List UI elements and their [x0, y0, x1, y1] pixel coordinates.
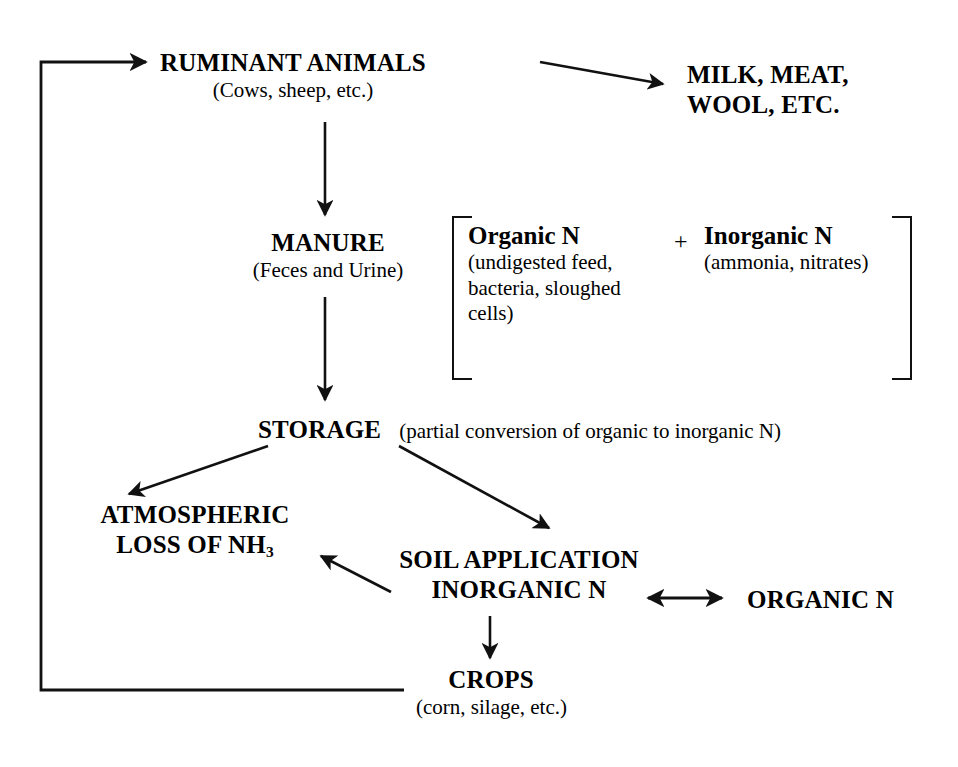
storage-note: (partial conversion of organic to inorga…	[399, 419, 781, 443]
node-soil-application: SOIL APPLICATION INORGANIC N	[389, 545, 649, 604]
atmospheric-line-2: LOSS OF NH3	[60, 530, 330, 562]
atmospheric-line-1: ATMOSPHERIC	[60, 500, 330, 530]
products-line-2: WOOL, ETC.	[687, 90, 849, 120]
soil-inorganic-n-label: INORGANIC N	[389, 575, 649, 605]
plus-sign: +	[674, 228, 688, 255]
arrow-crops-to-ruminant	[41, 62, 404, 690]
node-animal-products: MILK, MEAT, WOOL, ETC.	[687, 60, 849, 119]
crops-subtext: (corn, silage, etc.)	[416, 695, 566, 720]
node-manure: MANURE (Feces and Urine)	[223, 228, 433, 282]
inorganic-n-subtext: (ammonia, nitrates)	[704, 250, 909, 276]
node-organic-n-composition: Organic N (undigested feed, bacteria, sl…	[468, 222, 668, 327]
ammonia-subscript: 3	[266, 543, 274, 560]
node-ruminant-animals: RUMINANT ANIMALS (Cows, sheep, etc.)	[160, 48, 426, 102]
arrow-storage-to-soil	[399, 446, 549, 528]
node-soil-organic-n: ORGANIC N	[747, 585, 894, 615]
crops-heading: CROPS	[416, 665, 566, 695]
soil-organic-n-label: ORGANIC N	[747, 585, 894, 615]
node-crops: CROPS (corn, silage, etc.)	[416, 665, 566, 719]
arrow-ruminant-to-products	[540, 62, 663, 84]
node-storage: STORAGE(partial conversion of organic to…	[258, 415, 781, 445]
manure-subtext: (Feces and Urine)	[223, 258, 433, 283]
products-line-1: MILK, MEAT,	[687, 60, 849, 90]
soil-application-heading: SOIL APPLICATION	[389, 545, 649, 575]
atmospheric-line-2-text: LOSS OF NH	[116, 531, 266, 558]
node-inorganic-n-composition: Inorganic N (ammonia, nitrates)	[704, 222, 909, 276]
inorganic-n-heading: Inorganic N	[704, 222, 909, 250]
arrow-inorganic-to-atmospheric	[321, 556, 391, 592]
organic-n-heading: Organic N	[468, 222, 668, 250]
node-atmospheric-loss: ATMOSPHERIC LOSS OF NH3	[60, 500, 330, 561]
ruminant-heading: RUMINANT ANIMALS	[160, 48, 426, 78]
manure-heading: MANURE	[223, 228, 433, 258]
nitrogen-cycle-diagram: RUMINANT ANIMALS (Cows, sheep, etc.) MIL…	[0, 0, 958, 767]
manure-composition-bracket-group: Organic N (undigested feed, bacteria, sl…	[452, 216, 912, 376]
ruminant-subtext: (Cows, sheep, etc.)	[160, 78, 426, 103]
storage-heading: STORAGE	[258, 416, 381, 443]
arrow-storage-to-atmospheric	[129, 446, 268, 494]
organic-n-subtext: (undigested feed, bacteria, sloughed cel…	[468, 250, 668, 327]
